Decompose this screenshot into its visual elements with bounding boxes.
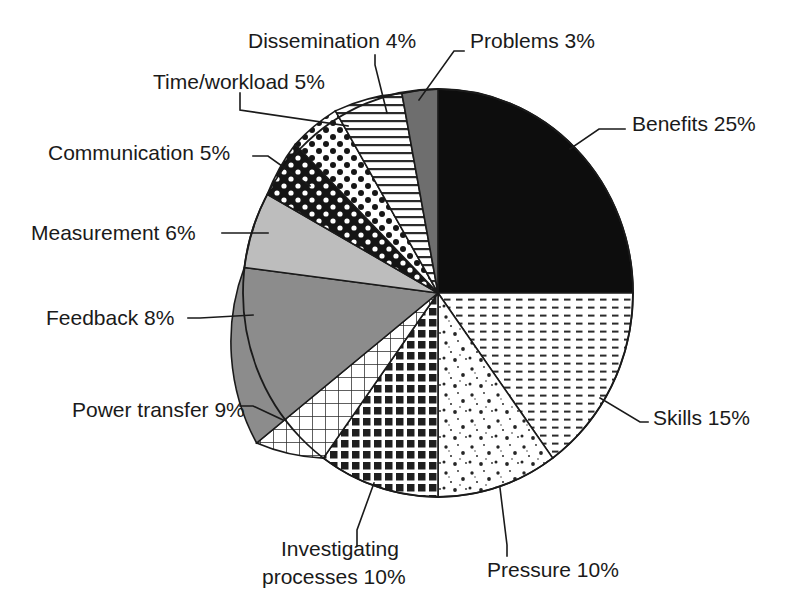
label-investigating-processes-line2: processes 10% (262, 565, 406, 588)
pie-chart-figure: Benefits 25% Skills 15% Pressure 10% Inv… (0, 0, 790, 605)
leader-line-skills (600, 398, 648, 422)
leader-line-pressure (500, 488, 507, 556)
label-measurement: Measurement 6% (31, 221, 196, 244)
label-benefits: Benefits 25% (632, 112, 756, 135)
pie-slices (231, 89, 633, 497)
label-skills: Skills 15% (653, 406, 750, 429)
label-power-transfer: Power transfer 9% (72, 398, 245, 421)
pie-chart-svg: Benefits 25% Skills 15% Pressure 10% Inv… (0, 0, 790, 605)
label-time-workload: Time/workload 5% (153, 70, 325, 93)
label-problems: Problems 3% (470, 29, 595, 52)
label-feedback: Feedback 8% (46, 306, 174, 329)
leader-line-benefits (570, 129, 625, 149)
label-dissemination: Dissemination 4% (248, 29, 416, 52)
label-communication: Communication 5% (48, 141, 230, 164)
label-pressure: Pressure 10% (487, 558, 619, 581)
pie-slice-benefits[interactable] (438, 89, 633, 293)
label-investigating-processes-line1: Investigating (281, 537, 399, 560)
